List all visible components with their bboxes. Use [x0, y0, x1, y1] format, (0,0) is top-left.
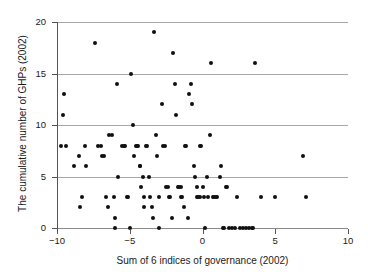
data-point — [184, 144, 188, 148]
data-point — [201, 185, 205, 189]
y-tick-label-20: 20 — [6, 17, 46, 27]
data-point — [83, 144, 87, 148]
data-point — [123, 144, 127, 148]
y-tick-label-5: 5 — [6, 172, 46, 182]
x-tick-label-0: 0 — [183, 236, 223, 246]
data-point — [102, 154, 106, 158]
data-point — [93, 41, 97, 45]
data-point — [110, 133, 114, 137]
data-point — [205, 175, 209, 179]
x-tick-label--10: −10 — [37, 236, 77, 246]
data-point — [174, 113, 178, 117]
data-point — [150, 205, 154, 209]
data-point — [199, 144, 203, 148]
data-point — [129, 72, 133, 76]
data-point — [163, 144, 167, 148]
data-point — [115, 82, 119, 86]
y-tick-20 — [52, 22, 57, 23]
data-point — [64, 144, 68, 148]
plot-area — [57, 22, 348, 228]
data-point — [273, 195, 277, 199]
x-tick-label-5: 5 — [255, 236, 295, 246]
data-point — [219, 164, 223, 168]
data-point — [189, 82, 193, 86]
data-point — [132, 154, 136, 158]
data-point — [157, 226, 161, 230]
gridline-y-15 — [57, 74, 348, 75]
data-point — [148, 195, 152, 199]
data-point — [157, 195, 161, 199]
data-point — [104, 195, 108, 199]
data-point — [193, 175, 197, 179]
data-point — [208, 133, 212, 137]
data-point — [84, 164, 88, 168]
data-point — [136, 144, 140, 148]
data-point — [166, 185, 170, 189]
data-point — [206, 195, 210, 199]
y-tick-label-15: 15 — [6, 69, 46, 79]
data-point — [259, 195, 263, 199]
data-point — [187, 92, 191, 96]
y-axis-line — [57, 22, 58, 229]
data-point — [168, 195, 172, 199]
data-point — [198, 195, 202, 199]
data-point — [138, 164, 142, 168]
data-point — [80, 195, 84, 199]
data-point — [209, 61, 213, 65]
data-point — [203, 226, 207, 230]
data-point — [61, 113, 65, 117]
data-point — [180, 195, 184, 199]
data-point — [142, 195, 146, 199]
gridline-y-5 — [57, 177, 348, 178]
y-tick-label-0: 0 — [6, 223, 46, 233]
data-point — [173, 82, 177, 86]
x-tick--5 — [130, 229, 131, 234]
data-point — [186, 216, 190, 220]
data-point — [195, 185, 199, 189]
data-point — [77, 154, 81, 158]
data-point — [251, 226, 255, 230]
data-point — [113, 216, 117, 220]
data-point — [235, 195, 239, 199]
x-tick-5 — [275, 229, 276, 234]
y-tick-15 — [52, 74, 57, 75]
data-point — [147, 175, 151, 179]
x-tick-label--5: −5 — [110, 236, 150, 246]
gridline-y-20 — [57, 22, 348, 23]
data-point — [222, 226, 226, 230]
data-point — [116, 175, 120, 179]
gridline-y-10 — [57, 125, 348, 126]
x-tick-10 — [348, 229, 349, 234]
data-point — [112, 195, 116, 199]
data-point — [218, 175, 222, 179]
y-tick-label-10: 10 — [6, 120, 46, 130]
data-point — [126, 195, 130, 199]
x-tick-label-10: 10 — [328, 236, 368, 246]
scatter-plot-figure: Sum of 6 indices of governance (2002) Th… — [0, 0, 368, 280]
data-point — [152, 30, 156, 34]
y-tick-10 — [52, 125, 57, 126]
x-tick-0 — [203, 229, 204, 234]
data-point — [113, 226, 117, 230]
data-point — [99, 144, 103, 148]
data-point — [304, 195, 308, 199]
x-axis-title: Sum of 6 indices of governance (2002) — [57, 255, 348, 266]
x-tick--10 — [57, 229, 58, 234]
data-point — [59, 144, 63, 148]
data-point — [233, 226, 237, 230]
data-point — [141, 175, 145, 179]
data-point — [145, 144, 149, 148]
data-point — [62, 92, 66, 96]
data-point — [154, 133, 158, 137]
data-point — [253, 61, 257, 65]
y-tick-5 — [52, 177, 57, 178]
data-point — [190, 102, 194, 106]
data-point — [131, 123, 135, 127]
data-point — [160, 102, 164, 106]
data-point — [301, 154, 305, 158]
data-point — [151, 216, 155, 220]
data-point — [106, 205, 110, 209]
data-point — [155, 154, 159, 158]
data-point — [225, 185, 229, 189]
data-point — [215, 195, 219, 199]
